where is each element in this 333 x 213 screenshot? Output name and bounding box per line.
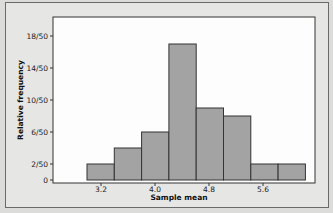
histogram-bar <box>169 44 196 180</box>
y-tick-label: 6/50 <box>31 128 48 137</box>
x-tick-label: 3.2 <box>95 185 107 194</box>
histogram-bar <box>87 164 114 180</box>
histogram-bar <box>196 108 223 180</box>
histogram-bar <box>114 148 141 180</box>
y-axis-title: Relative frequency <box>16 60 25 140</box>
y-tick-label: 14/50 <box>26 64 48 73</box>
y-tick-label: 2/50 <box>31 160 48 169</box>
y-axis: 02/506/5010/5014/5018/50 <box>26 32 53 185</box>
x-axis-title: Sample mean <box>150 193 207 202</box>
y-tick-label: 10/50 <box>26 96 48 105</box>
chart-figure: 02/506/5010/5014/5018/50 3.24.04.85.6 Sa… <box>5 2 329 208</box>
y-tick-label: 18/50 <box>26 32 48 41</box>
y-tick-label: 0 <box>43 176 48 185</box>
histogram-bar <box>142 132 169 180</box>
histogram-bar <box>251 164 278 180</box>
x-tick-label: 5.6 <box>257 185 269 194</box>
histogram-bar <box>224 116 251 180</box>
histogram-svg: 02/506/5010/5014/5018/50 3.24.04.85.6 Sa… <box>6 3 328 207</box>
histogram-bar <box>278 164 305 180</box>
